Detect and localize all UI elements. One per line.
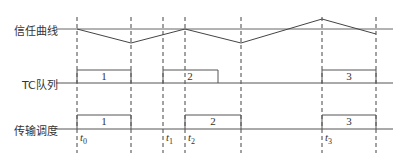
tc-queue-pulses bbox=[77, 70, 376, 83]
tc-queue-label: TC队列 bbox=[22, 76, 58, 92]
time-marker-t2: t2 bbox=[188, 131, 195, 146]
transmission-pulse-label: 1 bbox=[101, 115, 107, 127]
transmission-pulse-label: 3 bbox=[346, 115, 352, 127]
tc-queue-pulse-label: 3 bbox=[346, 70, 352, 82]
transmission-pulses bbox=[77, 115, 376, 129]
transmission-pulse-label: 2 bbox=[210, 115, 216, 127]
tc-queue-pulse-label: 2 bbox=[187, 70, 193, 82]
tc-queue-pulse-label: 1 bbox=[101, 70, 107, 82]
time-marker-t0: t0 bbox=[80, 131, 87, 146]
timing-diagram bbox=[0, 0, 420, 166]
trust-curve-label: 信任曲线 bbox=[14, 22, 58, 38]
time-marker-t3: t3 bbox=[325, 131, 332, 146]
trust-curve bbox=[77, 19, 376, 43]
time-marker-t1: t1 bbox=[166, 131, 173, 146]
transmission-schedule-label: 传输调度 bbox=[14, 122, 58, 138]
